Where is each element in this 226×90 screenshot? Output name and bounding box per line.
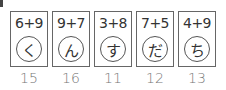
kana-circle: だ [142,36,168,62]
problem-cell: 9+7 ん 16 [51,11,91,86]
kana-circle: ん [58,36,84,62]
problem-cell: 6+9 く 15 [9,11,49,86]
kana-circle: ち [184,36,210,62]
expression: 9+7 [57,15,85,31]
answer-number: 13 [188,70,206,86]
expression: 3+8 [99,15,127,31]
expression: 4+9 [183,15,211,31]
problem-row: 6+9 く 15 9+7 ん 16 3+8 す 11 7+5 だ 12 4+9 … [9,11,217,86]
problem-box: 3+8 す [94,11,132,67]
problem-box: 6+9 く [10,11,48,67]
expression: 6+9 [15,15,43,31]
expression: 7+5 [141,15,169,31]
problem-box: 7+5 だ [136,11,174,67]
kana-circle: す [100,36,126,62]
problem-cell: 3+8 す 11 [93,11,133,86]
problem-cell: 7+5 だ 12 [135,11,175,86]
problem-box: 9+7 ん [52,11,90,67]
problem-cell: 4+9 ち 13 [177,11,217,86]
page-edge-mark [0,0,3,7]
kana-circle: く [16,36,42,62]
answer-number: 12 [146,70,164,86]
answer-number: 16 [62,70,80,86]
answer-number: 11 [104,70,122,86]
problem-box: 4+9 ち [178,11,216,67]
answer-number: 15 [20,70,38,86]
